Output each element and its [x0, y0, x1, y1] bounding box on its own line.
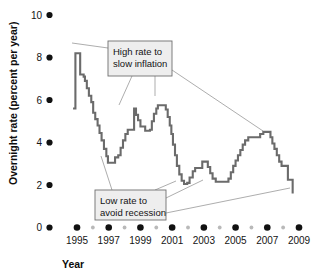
x-major-tick-dot — [105, 224, 112, 231]
y-tick-dot — [46, 12, 52, 18]
x-minor-tick-dot — [186, 226, 190, 230]
y-tick-label: 8 — [36, 52, 42, 63]
x-tick-label: 1997 — [98, 235, 121, 246]
y-tick-label: 0 — [36, 222, 42, 233]
x-minor-tick-dot — [281, 226, 285, 230]
x-tick-label: 1995 — [66, 235, 89, 246]
y-tick-dot — [46, 97, 52, 103]
y-axis-title: Overnight rate (percent per year) — [7, 22, 19, 185]
x-minor-tick-dot — [91, 226, 95, 230]
y-tick-label: 10 — [31, 10, 43, 21]
x-minor-tick-dot — [154, 226, 158, 230]
x-major-tick-dot — [264, 224, 271, 231]
x-tick-label: 2005 — [224, 235, 247, 246]
y-tick-label: 4 — [36, 137, 42, 148]
x-major-tick-dot — [201, 224, 208, 231]
callout-low-line1: Low rate to — [100, 195, 147, 206]
callout-high-line2: slow inflation — [113, 58, 167, 69]
y-tick-dot — [46, 54, 52, 60]
annotation-low-rate: Low rate to avoid recession — [95, 190, 166, 220]
x-major-tick-dot — [232, 224, 239, 231]
x-tick-label: 2007 — [256, 235, 279, 246]
chart-container: 1086420 19951997199920012003200520072009… — [0, 0, 324, 275]
x-major-tick-dot — [137, 224, 144, 231]
x-minor-tick-dot — [250, 226, 254, 230]
overnight-rate-line-chart: 1086420 19951997199920012003200520072009… — [0, 0, 324, 275]
callout-high-line1: High rate to — [113, 46, 162, 57]
y-tick-dot — [46, 224, 52, 230]
x-tick-label: 2001 — [161, 235, 184, 246]
x-tick-label: 1999 — [129, 235, 152, 246]
x-minor-tick-dot — [218, 226, 222, 230]
x-major-tick-dot — [169, 224, 176, 231]
callout-low-line2: avoid recession — [100, 207, 166, 218]
x-tick-label: 2003 — [193, 235, 216, 246]
x-major-tick-dot — [296, 224, 303, 231]
y-tick-label: 2 — [36, 180, 42, 191]
annotation-high-rate: High rate to slow inflation — [108, 41, 172, 76]
x-tick-label: 2009 — [288, 235, 311, 246]
y-tick-dot — [46, 139, 52, 145]
x-major-tick-dot — [74, 224, 81, 231]
x-axis-title: Year — [62, 258, 84, 270]
x-minor-tick-dot — [123, 226, 127, 230]
y-tick-dot — [46, 182, 52, 188]
y-tick-label: 6 — [36, 95, 42, 106]
